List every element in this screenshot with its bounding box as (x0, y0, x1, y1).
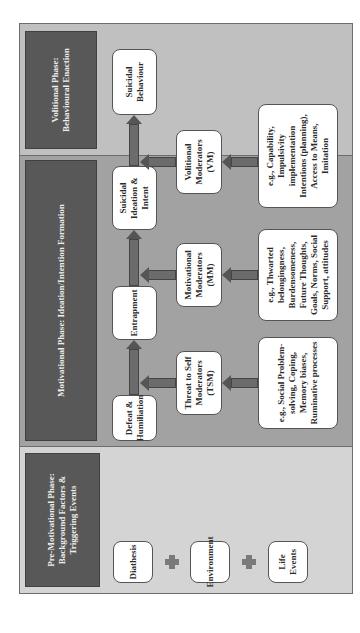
tsm-box: Threat to Self Moderators (TSM) (176, 351, 222, 415)
arrow-head-icon (126, 230, 142, 239)
arrow-tsm-examples-up (231, 378, 258, 388)
volitional-header: Volitional Phase: Behavioural Enaction (25, 31, 97, 149)
diagram-canvas: Pre-Motivational Phase: Background Facto… (0, 0, 360, 633)
arrow-mm-up (148, 270, 176, 280)
tsm-examples-box: e.g., Social Problem-solving, Coping, Me… (258, 337, 338, 429)
volitional-title: Volitional Phase: Behavioural Enaction (50, 36, 72, 144)
arrow-head-icon (126, 340, 142, 349)
defeat-humiliation-box: Defeat & Humiliation (112, 395, 157, 441)
arrow-head-icon (126, 115, 142, 124)
vm-examples-box: e.g., Capability, Impulsivity implementa… (258, 104, 338, 208)
mm-examples-box: e.g., Thwarted belongingness, Burdensome… (258, 229, 338, 321)
diagram-frame: Pre-Motivational Phase: Background Facto… (19, 23, 353, 594)
pre-motivational-title: Pre-Motivational Phase: Background Facto… (46, 458, 79, 582)
mm-box: Motivational Moderators (MM) (176, 243, 222, 307)
environment-box: Environment (190, 541, 230, 583)
pre-motivational-header: Pre-Motivational Phase: Background Facto… (25, 453, 100, 587)
arrow-head-icon (140, 154, 149, 170)
arrow-mm-examples-up (231, 270, 258, 280)
arrow-vm-examples-up (231, 157, 258, 167)
entrapment-box: Entrapment (112, 286, 157, 340)
diathesis-box: Diathesis (113, 541, 153, 583)
suicidal-behaviour-box: Suicidal Behaviour (112, 49, 157, 115)
life-events-box: Life Events (268, 541, 308, 583)
arrow-head-icon (222, 375, 231, 391)
arrow-head-icon (140, 267, 149, 283)
arrow-ideation-to-behaviour (129, 124, 139, 166)
arrow-tsm-up (148, 378, 176, 388)
arrow-entrapment-to-ideation (129, 239, 139, 286)
arrow-vm-up (148, 157, 176, 167)
arrow-head-icon (140, 375, 149, 391)
suicidal-ideation-intent-box: Suicidal Ideation & Intent (112, 166, 157, 230)
motivational-title: Motivational Phase: Ideation/Intention F… (56, 204, 67, 397)
arrow-defeat-to-entrapment (129, 349, 139, 395)
vm-box: Volitional Moderators (VM) (176, 130, 222, 194)
arrow-head-icon (222, 267, 231, 283)
plus-icon (165, 555, 179, 569)
plus-icon (242, 555, 256, 569)
arrow-head-icon (222, 154, 231, 170)
motivational-header: Motivational Phase: Ideation/Intention F… (25, 160, 97, 441)
